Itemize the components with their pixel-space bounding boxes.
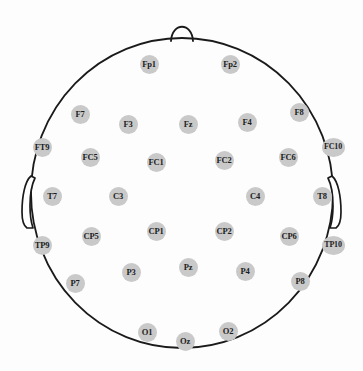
electrode-label: FC10 bbox=[324, 143, 342, 151]
electrode-label: F3 bbox=[123, 120, 132, 129]
electrode-label: CP5 bbox=[84, 232, 99, 241]
electrode-pz[interactable]: Pz bbox=[179, 258, 198, 277]
electrode-label: Oz bbox=[180, 337, 190, 346]
electrode-label: FC1 bbox=[149, 158, 164, 167]
electrode-label: P8 bbox=[295, 277, 304, 286]
electrode-label: FC5 bbox=[83, 153, 98, 162]
electrode-label: TP10 bbox=[324, 241, 341, 249]
electrode-label: P3 bbox=[126, 268, 135, 277]
electrode-label: FT9 bbox=[35, 143, 50, 152]
electrode-fp1[interactable]: Fp1 bbox=[140, 55, 159, 74]
electrode-tp9[interactable]: TP9 bbox=[33, 236, 52, 255]
electrode-cp1[interactable]: CP1 bbox=[147, 222, 166, 241]
electrode-fp2[interactable]: Fp2 bbox=[221, 55, 240, 74]
electrode-p4[interactable]: P4 bbox=[236, 262, 255, 281]
electrode-label: CP6 bbox=[282, 232, 297, 241]
electrode-fc5[interactable]: FC5 bbox=[81, 148, 100, 167]
electrode-label: T8 bbox=[317, 192, 327, 201]
electrode-fz[interactable]: Fz bbox=[179, 115, 198, 134]
electrode-cp5[interactable]: CP5 bbox=[82, 227, 101, 246]
electrode-f7[interactable]: F7 bbox=[71, 105, 90, 124]
electrode-f8[interactable]: F8 bbox=[290, 103, 309, 122]
electrode-oz[interactable]: Oz bbox=[176, 332, 195, 351]
electrode-label: F7 bbox=[75, 110, 84, 119]
electrode-label: Fz bbox=[184, 120, 193, 129]
electrode-label: TP9 bbox=[35, 241, 50, 250]
electrode-t8[interactable]: T8 bbox=[313, 187, 332, 206]
electrode-label: P7 bbox=[70, 279, 79, 288]
eeg-electrode-montage: Fp1Fp2F7F3FzF4F8FT9FC5FC1FC2FC6FC10T7C3C… bbox=[0, 0, 363, 371]
electrode-p7[interactable]: P7 bbox=[66, 274, 85, 293]
electrode-f3[interactable]: F3 bbox=[119, 115, 138, 134]
electrode-label: O1 bbox=[142, 328, 152, 337]
electrode-f4[interactable]: F4 bbox=[238, 113, 257, 132]
head-outline-graphic bbox=[0, 0, 363, 371]
electrode-o1[interactable]: O1 bbox=[138, 323, 157, 342]
electrode-label: C4 bbox=[250, 192, 260, 201]
electrode-c3[interactable]: C3 bbox=[109, 187, 128, 206]
electrode-tp10[interactable]: TP10 bbox=[322, 236, 345, 255]
electrode-fc10[interactable]: FC10 bbox=[322, 138, 345, 157]
electrode-label: CP1 bbox=[149, 227, 164, 236]
electrode-label: Pz bbox=[184, 263, 193, 272]
electrode-label: F4 bbox=[242, 118, 251, 127]
electrode-label: T7 bbox=[47, 192, 57, 201]
electrode-label: F8 bbox=[294, 108, 303, 117]
electrode-label: P4 bbox=[240, 267, 249, 276]
electrode-t7[interactable]: T7 bbox=[43, 187, 62, 206]
electrode-fc6[interactable]: FC6 bbox=[279, 148, 298, 167]
electrode-o2[interactable]: O2 bbox=[219, 322, 238, 341]
electrode-cp6[interactable]: CP6 bbox=[280, 227, 299, 246]
electrode-label: O2 bbox=[223, 327, 233, 336]
electrode-label: CP2 bbox=[217, 227, 232, 236]
electrode-ft9[interactable]: FT9 bbox=[33, 138, 52, 157]
electrode-c4[interactable]: C4 bbox=[246, 187, 265, 206]
electrode-label: FC2 bbox=[217, 156, 232, 165]
electrode-fc1[interactable]: FC1 bbox=[147, 153, 166, 172]
electrode-label: FC6 bbox=[281, 153, 296, 162]
electrode-p8[interactable]: P8 bbox=[291, 272, 310, 291]
electrode-fc2[interactable]: FC2 bbox=[215, 151, 234, 170]
electrode-label: Fp2 bbox=[223, 60, 237, 69]
electrode-cp2[interactable]: CP2 bbox=[215, 222, 234, 241]
head-circle bbox=[31, 38, 333, 348]
electrode-label: Fp1 bbox=[142, 60, 156, 69]
electrode-label: C3 bbox=[113, 192, 123, 201]
electrode-p3[interactable]: P3 bbox=[122, 263, 141, 282]
